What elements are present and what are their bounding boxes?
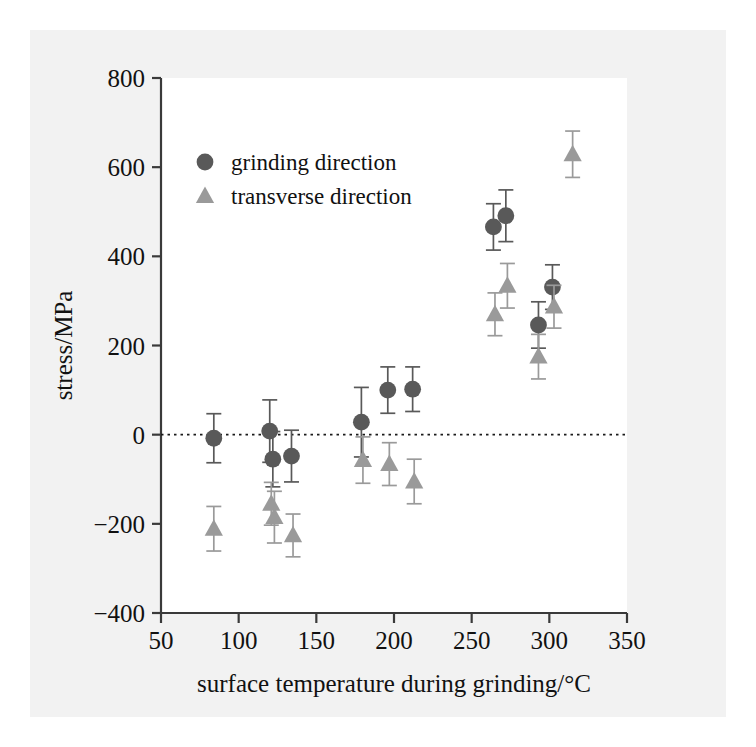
data-marker-triangle [262,494,280,511]
data-marker-triangle [196,186,214,203]
data-marker-circle [205,430,222,447]
data-marker-triangle [205,519,223,536]
figure-canvas: −400−20002004006008005010015020025030035… [0,0,756,747]
y-tick-label: 800 [108,65,146,92]
data-marker-triangle [380,454,398,471]
data-marker-triangle [498,276,516,293]
x-tick-label: 50 [149,627,174,654]
x-tick-label: 150 [298,627,336,654]
legend: grinding directiontransverse direction [196,150,412,209]
x-tick-label: 350 [608,627,646,654]
data-marker-circle [353,414,370,431]
data-marker-triangle [529,347,547,364]
y-axis-title: stress/MPa [50,291,77,401]
data-marker-circle [283,448,300,465]
y-tick-label: −400 [93,600,145,627]
x-axis-title: surface temperature during grinding/°C [197,670,591,697]
data-marker-circle [497,207,514,224]
data-marker-circle [197,154,214,171]
legend-label-grinding-direction: grinding direction [231,150,397,175]
x-tick-label: 300 [531,627,569,654]
data-marker-triangle [486,305,504,322]
data-marker-triangle [284,526,302,543]
data-marker-triangle [405,472,423,489]
x-tick-label: 200 [375,627,413,654]
data-marker-circle [264,451,281,468]
data-marker-circle [485,219,502,236]
data-marker-triangle [545,297,563,314]
data-marker-circle [544,279,561,296]
data-marker-circle [530,317,547,334]
y-tick-label: 400 [108,243,146,270]
data-marker-circle [404,381,421,398]
data-marker-circle [379,382,396,399]
data-marker-circle [261,423,278,440]
data-marker-triangle [564,145,582,162]
y-tick-label: −200 [93,511,145,538]
y-tick-label: 600 [108,154,146,181]
chart-svg: −400−20002004006008005010015020025030035… [0,0,756,747]
y-tick-label: 0 [133,422,146,449]
y-tick-label: 200 [108,333,146,360]
legend-label-transverse-direction: transverse direction [231,184,412,209]
x-tick-label: 250 [453,627,491,654]
x-tick-label: 100 [220,627,258,654]
data-marker-triangle [354,450,372,467]
